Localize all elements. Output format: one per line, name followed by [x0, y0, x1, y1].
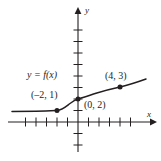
marked-point-neg2-1 [55, 108, 60, 113]
x-axis-arrowhead [150, 119, 157, 126]
y-axis-label: y [85, 6, 89, 15]
coordinate-plane [0, 0, 161, 161]
y-axis-arrowhead [75, 7, 82, 14]
point-label-4-3: (4, 3) [105, 71, 127, 81]
graph-figure: y = f(x) (–2, 1) (0, 2) (4, 3) x y [0, 0, 161, 161]
point-label-neg2-1: (–2, 1) [31, 90, 58, 100]
x-axis-label: x [147, 110, 151, 119]
marked-point-0-2 [76, 97, 81, 102]
marked-point-4-3 [118, 85, 123, 90]
point-label-0-2: (0, 2) [84, 100, 106, 110]
function-label: y = f(x) [27, 70, 57, 80]
